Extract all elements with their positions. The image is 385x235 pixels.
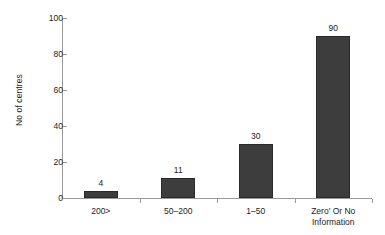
y-tick-label: 100 <box>37 13 63 23</box>
y-tick-mark <box>63 54 67 55</box>
y-tick-mark <box>63 90 67 91</box>
y-tick-mark <box>63 198 67 199</box>
y-axis-title: No of centres <box>14 50 24 150</box>
x-category-label-line: 200> <box>62 206 140 217</box>
y-tick-label: 40 <box>37 121 63 131</box>
bar <box>239 144 273 198</box>
x-category-label-line: 50–200 <box>140 206 218 217</box>
bar-value-label: 90 <box>308 23 358 33</box>
x-category-label: 200> <box>62 206 140 217</box>
x-category-label-line: Zero' Or No <box>295 206 373 217</box>
x-category-label: Zero' Or NoInformation <box>295 206 373 227</box>
bar <box>161 178 195 198</box>
x-category-label: 1–50 <box>217 206 295 217</box>
y-tick-label: 0 <box>37 193 63 203</box>
y-tick-mark <box>63 162 67 163</box>
y-tick-label: 20 <box>37 157 63 167</box>
x-tick-mark <box>217 199 218 203</box>
y-tick-label: 80 <box>37 49 63 59</box>
bar-value-label: 4 <box>76 178 126 188</box>
bar <box>316 36 350 198</box>
y-axis-line <box>62 18 63 198</box>
bar-value-label: 11 <box>153 165 203 175</box>
y-tick-mark <box>63 18 67 19</box>
x-tick-mark <box>295 199 296 203</box>
bar <box>84 191 118 198</box>
x-category-label-line: 1–50 <box>217 206 295 217</box>
x-category-label: 50–200 <box>140 206 218 217</box>
bar-chart: No of centres 020406080100 4113090 200>5… <box>0 0 385 235</box>
bar-value-label: 30 <box>231 131 281 141</box>
plot-area: 020406080100 4113090 200>50–2001–50Zero'… <box>62 18 372 198</box>
x-tick-mark <box>140 199 141 203</box>
y-tick-label: 60 <box>37 85 63 95</box>
x-tick-mark <box>372 199 373 203</box>
x-category-label-line: Information <box>295 217 373 228</box>
y-tick-mark <box>63 126 67 127</box>
